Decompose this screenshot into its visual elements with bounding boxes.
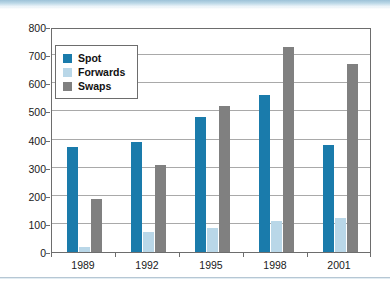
legend-item-swaps[interactable]: Swaps bbox=[63, 79, 125, 93]
legend-label-spot: Spot bbox=[78, 52, 101, 64]
bar-forwards-1998[interactable] bbox=[271, 221, 282, 252]
bar-forwards-1989[interactable] bbox=[79, 247, 90, 252]
x-axis: 19891992199519982001 bbox=[51, 253, 371, 277]
bar-group bbox=[195, 29, 230, 252]
legend-swatch-spot-icon bbox=[63, 54, 72, 63]
y-axis-tick-label: 800 bbox=[2, 22, 46, 34]
bar-swaps-1995[interactable] bbox=[219, 106, 230, 252]
y-axis-tick-label: 0 bbox=[2, 247, 46, 259]
y-axis-tick-label: 700 bbox=[2, 50, 46, 62]
legend-item-forwards[interactable]: Forwards bbox=[63, 65, 125, 79]
legend-label-forwards: Forwards bbox=[78, 66, 125, 78]
bar-swaps-1998[interactable] bbox=[283, 47, 294, 252]
x-axis-tick-mark bbox=[115, 253, 116, 257]
header-gradient-strip bbox=[0, 0, 390, 7]
y-axis-tick-label: 200 bbox=[2, 191, 46, 203]
y-axis-tick-label: 100 bbox=[2, 219, 46, 231]
bar-swaps-1989[interactable] bbox=[91, 199, 102, 252]
bottom-divider-highlight bbox=[0, 278, 390, 279]
y-axis-tick-mark bbox=[46, 84, 50, 85]
bar-swaps-2001[interactable] bbox=[347, 64, 358, 252]
y-axis-tick-mark bbox=[46, 141, 50, 142]
x-axis-tick-mark bbox=[307, 253, 308, 257]
y-axis-tick-mark bbox=[46, 56, 50, 57]
x-axis-tick-mark bbox=[179, 253, 180, 257]
x-axis-tick-mark bbox=[243, 253, 244, 257]
y-axis-tick-mark bbox=[46, 253, 50, 254]
bar-group bbox=[259, 29, 294, 252]
bar-forwards-1992[interactable] bbox=[143, 232, 154, 252]
legend-item-spot[interactable]: Spot bbox=[63, 51, 125, 65]
y-axis-tick-mark bbox=[46, 28, 50, 29]
bar-spot-1995[interactable] bbox=[195, 117, 206, 252]
x-axis-tick-label: 1992 bbox=[135, 259, 158, 271]
x-axis-tick-mark bbox=[370, 253, 371, 257]
y-axis-tick-label: 300 bbox=[2, 163, 46, 175]
x-axis-tick-mark bbox=[51, 253, 52, 257]
chart-legend: Spot Forwards Swaps bbox=[55, 45, 138, 99]
bar-spot-2001[interactable] bbox=[323, 145, 334, 252]
bar-chart: 0100200300400500600700800 19891992199519… bbox=[0, 9, 390, 277]
bar-swaps-1992[interactable] bbox=[155, 165, 166, 252]
y-axis-tick-label: 600 bbox=[2, 78, 46, 90]
y-axis-tick-label: 400 bbox=[2, 135, 46, 147]
x-axis-tick-label: 1989 bbox=[71, 259, 94, 271]
x-axis-tick-label: 2001 bbox=[327, 259, 350, 271]
bar-spot-1992[interactable] bbox=[131, 142, 142, 252]
bar-forwards-2001[interactable] bbox=[335, 218, 346, 252]
y-axis: 0100200300400500600700800 bbox=[0, 28, 46, 253]
y-axis-tick-mark bbox=[46, 197, 50, 198]
x-axis-tick-label: 1998 bbox=[263, 259, 286, 271]
bar-spot-1989[interactable] bbox=[67, 147, 78, 252]
y-axis-tick-mark bbox=[46, 169, 50, 170]
legend-label-swaps: Swaps bbox=[78, 80, 111, 92]
bar-spot-1998[interactable] bbox=[259, 95, 270, 253]
bar-group bbox=[323, 29, 358, 252]
y-axis-tick-label: 500 bbox=[2, 106, 46, 118]
x-axis-tick-label: 1995 bbox=[199, 259, 222, 271]
y-axis-tick-mark bbox=[46, 112, 50, 113]
bar-forwards-1995[interactable] bbox=[207, 228, 218, 252]
legend-swatch-forwards-icon bbox=[63, 68, 72, 77]
legend-swatch-swaps-icon bbox=[63, 82, 72, 91]
y-axis-tick-mark bbox=[46, 225, 50, 226]
